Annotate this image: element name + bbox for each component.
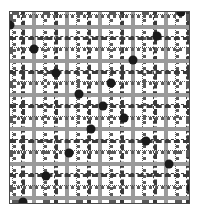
gridline-horizontal [10, 25, 189, 29]
gridline-vertical [54, 12, 58, 203]
gridline-horizontal [10, 14, 189, 18]
data-point [142, 137, 151, 146]
gridline-horizontal [10, 81, 189, 85]
data-point [75, 90, 84, 99]
data-point [9, 21, 15, 30]
gridline-vertical [87, 12, 91, 203]
gridline-horizontal [10, 36, 189, 40]
gridline-vertical [142, 12, 146, 203]
gridline-horizontal [10, 139, 189, 143]
data-point [99, 102, 108, 111]
data-point [129, 56, 138, 65]
gridline-horizontal [10, 116, 189, 120]
gridline-horizontal [10, 196, 189, 200]
gridline-horizontal [10, 70, 189, 74]
data-point [120, 114, 129, 123]
gridline-horizontal [10, 150, 189, 154]
gridline-vertical [32, 12, 36, 203]
gridline-vertical [120, 12, 124, 203]
gridline-horizontal [10, 127, 189, 131]
gridline-horizontal [10, 185, 189, 189]
gridline-vertical [65, 12, 69, 203]
data-point [19, 198, 28, 205]
gridline-vertical [175, 12, 179, 203]
data-point [87, 125, 96, 134]
data-point [153, 32, 162, 41]
gridline-vertical [131, 12, 135, 203]
gridline-horizontal [10, 59, 189, 63]
gridline-vertical [153, 12, 157, 203]
gridline-vertical [76, 12, 80, 203]
gridline-vertical [12, 12, 16, 203]
scatter-plot-figure [0, 0, 206, 213]
data-point [42, 172, 51, 181]
data-point [165, 160, 174, 169]
data-point [187, 184, 191, 193]
gridline-horizontal [10, 173, 189, 177]
plot-area [9, 11, 190, 204]
gridline-vertical [164, 12, 168, 203]
gridline-horizontal [10, 162, 189, 166]
data-point [30, 45, 39, 54]
data-point [177, 11, 186, 17]
data-point [107, 79, 116, 88]
data-point [65, 149, 74, 158]
gridline-horizontal [10, 93, 189, 97]
data-point [52, 69, 61, 78]
gridline-vertical [21, 12, 25, 203]
gridline-vertical [109, 12, 113, 203]
gridline-vertical [186, 12, 190, 203]
